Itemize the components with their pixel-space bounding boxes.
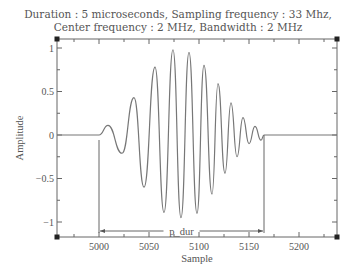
x-tick-label: 5200 xyxy=(289,241,309,252)
y-axis-label: Amplitude xyxy=(14,115,25,160)
p-dur-label: p_dur xyxy=(169,226,194,237)
y-tick-label: −0.5 xyxy=(36,173,54,184)
chart: 5000505051005150520010.50−0.5−1 p_dur Sa… xyxy=(0,0,356,272)
x-tick-label: 5100 xyxy=(189,241,209,252)
x-axis-label: Sample xyxy=(181,253,213,264)
y-tick-label: −1 xyxy=(43,217,54,228)
y-tick-label: 1 xyxy=(49,43,54,54)
x-tick-label: 5150 xyxy=(239,241,259,252)
x-tick-label: 5000 xyxy=(89,241,109,252)
y-tick-label: 0 xyxy=(49,130,54,141)
x-tick-label: 5050 xyxy=(139,241,159,252)
axes-box: 5000505051005150520010.50−0.5−1 xyxy=(36,37,340,253)
y-tick-label: 0.5 xyxy=(42,86,55,97)
